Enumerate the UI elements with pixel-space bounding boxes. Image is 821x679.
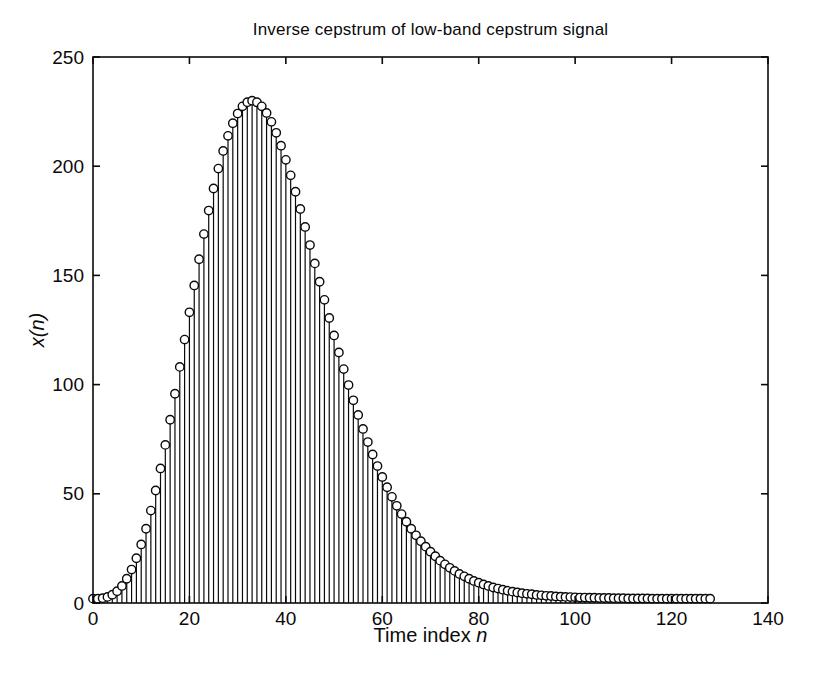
stem-marker	[340, 365, 348, 373]
stem-marker	[142, 525, 150, 533]
stem-marker	[335, 348, 343, 356]
y-tick-label: 200	[52, 156, 84, 177]
stem-marker	[320, 296, 328, 304]
stem-marker	[706, 594, 714, 602]
y-tick-label: 100	[52, 374, 84, 395]
stem-marker	[388, 493, 396, 501]
stem-marker	[161, 441, 169, 449]
stem-marker	[267, 118, 275, 126]
stem-marker	[209, 184, 217, 192]
stem-marker	[214, 164, 222, 172]
x-axis-label-text: Time index	[374, 624, 477, 646]
stem-marker	[378, 473, 386, 481]
stem-marker	[311, 259, 319, 267]
stem-marker	[272, 129, 280, 137]
stem-marker	[195, 255, 203, 263]
stem-marker	[166, 416, 174, 424]
stem-marker	[262, 109, 270, 117]
stem-marker	[349, 396, 357, 404]
stem-marker	[397, 510, 405, 518]
stem-marker	[137, 540, 145, 548]
stem-marker	[171, 390, 179, 398]
stem-marker	[291, 188, 299, 196]
y-tick-label: 0	[73, 593, 84, 614]
stem-marker	[132, 554, 140, 562]
figure: Inverse cepstrum of low-band cepstrum si…	[0, 0, 821, 679]
stem-marker	[151, 486, 159, 494]
stem-marker	[185, 308, 193, 316]
stem-marker	[147, 506, 155, 514]
y-tick-label: 50	[63, 483, 84, 504]
stem-marker	[393, 502, 401, 510]
stem-marker	[219, 147, 227, 155]
stem-plot: 020406080100120140050100150200250	[0, 0, 821, 679]
stem-marker	[282, 156, 290, 164]
stem-marker	[205, 206, 213, 214]
stem-marker	[354, 411, 362, 419]
stem-marker	[277, 141, 285, 149]
stem-marker	[330, 331, 338, 339]
stem-marker	[383, 483, 391, 491]
x-axis-label: Time index n	[93, 624, 768, 647]
stem-marker	[306, 241, 314, 249]
stem-marker	[373, 462, 381, 470]
stem-marker	[224, 132, 232, 140]
stem-marker	[368, 450, 376, 458]
stem-marker	[229, 119, 237, 127]
stem-marker	[200, 230, 208, 238]
stem-marker	[176, 363, 184, 371]
stem-marker	[127, 565, 135, 573]
stem-marker	[190, 281, 198, 289]
stem-marker	[156, 464, 164, 472]
stem-marker	[296, 205, 304, 213]
stem-marker	[301, 223, 309, 231]
stem-marker	[325, 314, 333, 322]
x-axis-label-variable: n	[476, 624, 487, 646]
stem-marker	[315, 278, 323, 286]
y-tick-label: 250	[52, 47, 84, 68]
stem-marker	[344, 381, 352, 389]
stem-marker	[286, 171, 294, 179]
y-tick-label: 150	[52, 265, 84, 286]
stem-marker	[123, 575, 131, 583]
y-axis-label: x(n)	[26, 313, 49, 347]
stem-marker	[180, 335, 188, 343]
stem-marker	[364, 438, 372, 446]
stem-marker	[359, 425, 367, 433]
